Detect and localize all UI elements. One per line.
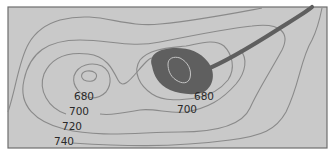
- label-680-left: 680: [74, 90, 94, 102]
- label-720: 720: [62, 120, 82, 132]
- label-680-lake: 680: [194, 90, 214, 102]
- contour-map-canvas: 680 700 720 740 680 700: [0, 0, 332, 157]
- label-700-lake: 700: [177, 103, 197, 115]
- label-740: 740: [54, 135, 74, 147]
- label-700-left: 700: [69, 105, 89, 117]
- topographic-map: 680 700 720 740 680 700: [0, 0, 332, 157]
